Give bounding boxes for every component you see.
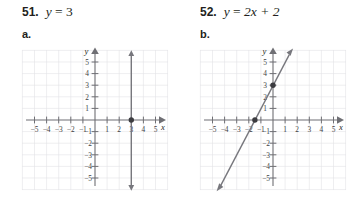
y-axis-label: y	[262, 46, 267, 56]
x-tick-label: −3	[233, 125, 241, 134]
problem-51-equation-lhs: y	[46, 4, 52, 19]
problem-51-equation: y = 3	[46, 4, 73, 19]
graph-51a-canvas: −5 −4 −3 −2 −1 1 2 3 4 5 5 4 3 2	[20, 44, 170, 196]
problem-52-heading: 52.y = 2x + 2	[200, 4, 279, 20]
y-tick-label: 5	[85, 58, 89, 67]
x-tick-label: 2	[117, 125, 121, 134]
x-tick-label: 1	[283, 125, 287, 134]
x-tick-label: 5	[154, 125, 158, 134]
x-tick-label: 4	[142, 125, 146, 134]
problem-51-equation-rhs: 3	[66, 4, 73, 19]
x-tick-label: 4	[320, 125, 324, 134]
x-tick-label: −4	[43, 125, 51, 134]
worksheet-page: 51.y = 3 a.	[0, 0, 356, 206]
y-tick-label: −4	[262, 162, 270, 171]
y-tick-label: −1	[262, 127, 270, 136]
problem-52-equation-rhs: 2x + 2	[244, 4, 279, 19]
y-axis-label: y	[84, 46, 89, 56]
y-tick-label: −3	[84, 151, 92, 160]
x-tick-label: 3	[307, 125, 311, 134]
problem-51-number: 51.	[22, 5, 39, 19]
x-tick-label: −3	[55, 125, 63, 134]
problem-52-equation-operator: =	[233, 4, 241, 19]
x-tick-label: 2	[295, 125, 299, 134]
problem-52-equation-lhs: y	[224, 4, 230, 19]
y-tick-label: −5	[262, 174, 270, 183]
y-tick-label: −2	[262, 139, 270, 148]
x-tick-label: −4	[221, 125, 229, 134]
y-tick-label: 3	[263, 81, 267, 90]
graph-52b: −5 −4 −3 −2 −1 1 2 3 4 5 5 4 3 2 1	[198, 44, 348, 196]
y-tick-label: −5	[84, 174, 92, 183]
problem-51: 51.y = 3 a.	[0, 0, 178, 206]
problem-51-equation-operator: =	[55, 4, 63, 19]
problem-51-part-label: a.	[22, 28, 31, 41]
problem-51-heading: 51.y = 3	[22, 4, 73, 20]
x-tick-label: 1	[105, 125, 109, 134]
plotted-point	[129, 117, 134, 122]
graph-51a: −5 −4 −3 −2 −1 1 2 3 4 5 5 4 3 2	[20, 44, 170, 196]
y-tick-label: 3	[85, 81, 89, 90]
y-tick-label: 4	[263, 69, 267, 78]
x-tick-label: 5	[332, 125, 336, 134]
plotted-point-y-intercept	[270, 83, 275, 88]
y-tick-label: 2	[85, 93, 89, 102]
x-tick-label: −2	[67, 125, 75, 134]
x-tick-label: −5	[209, 125, 217, 134]
problem-52-part-label: b.	[200, 28, 210, 41]
plotted-point-x-intercept	[252, 117, 257, 122]
problem-52: 52.y = 2x + 2 b.	[178, 0, 356, 206]
y-tick-label: 5	[263, 58, 267, 67]
y-tick-label: −1	[84, 127, 92, 136]
x-tick-label: −5	[31, 125, 39, 134]
graph-52b-canvas: −5 −4 −3 −2 −1 1 2 3 4 5 5 4 3 2 1	[198, 44, 348, 196]
problem-52-equation: y = 2x + 2	[224, 4, 280, 19]
x-axis-label: x	[338, 122, 343, 132]
y-tick-label: −2	[84, 139, 92, 148]
y-tick-label: 1	[263, 104, 267, 113]
y-tick-label: 4	[85, 69, 89, 78]
x-axis-label: x	[160, 122, 165, 132]
y-tick-label: −4	[84, 162, 92, 171]
problem-52-number: 52.	[200, 5, 217, 19]
y-tick-label: −3	[262, 151, 270, 160]
y-tick-label: 1	[85, 104, 89, 113]
